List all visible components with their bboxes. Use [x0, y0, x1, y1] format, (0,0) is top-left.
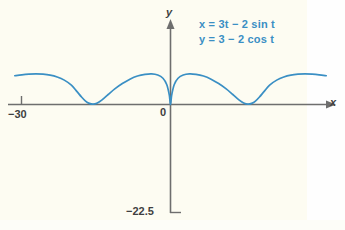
- origin-label: 0: [160, 106, 166, 118]
- y-axis-arrowhead: [167, 19, 175, 29]
- equation-x-label: x = 3t − 2 sin t: [199, 17, 275, 32]
- x-tick-label-minus-30: −30: [8, 108, 27, 120]
- equation-annotation-block: x = 3t − 2 sin t y = 3 − 2 cos t: [199, 17, 275, 47]
- y-axis-label: y: [166, 6, 172, 18]
- parametric-curve-figure: x = 3t − 2 sin t y = 3 − 2 cos t y x 0 −…: [0, 0, 345, 230]
- plot-canvas: [0, 0, 345, 230]
- equation-y-label: y = 3 − 2 cos t: [199, 32, 275, 47]
- x-axis-label: x: [330, 96, 336, 108]
- y-tick-label-minus-22-5: −22.5: [126, 205, 154, 217]
